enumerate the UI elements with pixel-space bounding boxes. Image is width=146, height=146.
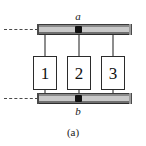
bottom-busbar: [37, 93, 132, 104]
top-busbar: [37, 24, 132, 35]
top-dashed-lead: [4, 29, 38, 30]
busbar-top-left-cap: [37, 24, 39, 35]
busbar-bottom-shadow: [37, 101, 132, 104]
terminal-label-b: b: [71, 106, 85, 117]
busbar-bottom-right-cap: [129, 93, 132, 104]
circuit-diagram-figure: a b 1 2 3 (a): [0, 0, 146, 146]
busbar-bottom-left-cap: [37, 93, 39, 104]
busbar-top-right-cap: [129, 24, 132, 35]
bottom-dashed-lead: [4, 98, 38, 99]
busbar-top-shadow: [37, 32, 132, 35]
component-box-2-label: 2: [75, 65, 84, 82]
figure-caption: (a): [0, 126, 146, 138]
terminal-node-b-dot: [75, 95, 82, 102]
branch-wire-2-top: [78, 33, 80, 57]
branch-wire-3-top: [112, 33, 114, 57]
component-box-3: 3: [101, 56, 125, 90]
component-box-1: 1: [33, 56, 57, 90]
component-box-1-label: 1: [41, 65, 50, 82]
terminal-node-a-dot: [75, 26, 82, 33]
branch-wire-1-top: [44, 33, 46, 57]
component-box-3-label: 3: [109, 65, 118, 82]
terminal-label-a: a: [71, 11, 85, 22]
component-box-2: 2: [67, 56, 91, 90]
